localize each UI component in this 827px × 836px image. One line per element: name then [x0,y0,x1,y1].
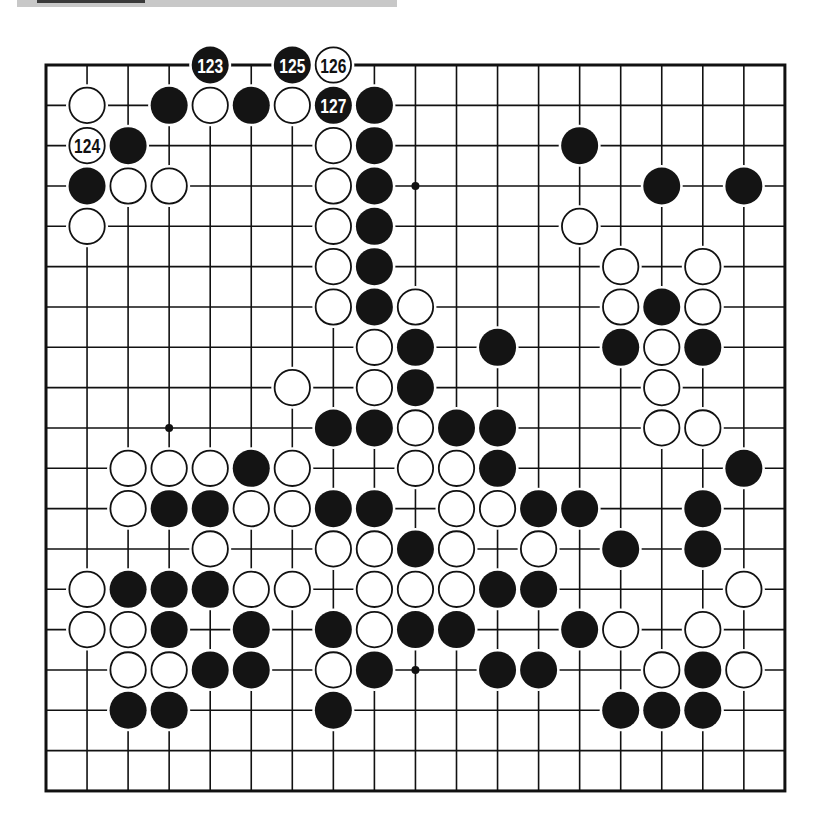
white-stone [353,609,395,651]
black-stone [723,447,765,489]
black-stone [189,488,231,530]
white-stone [394,447,436,489]
black-stone [353,205,395,247]
white-stone [271,447,313,489]
white-stone [641,326,683,368]
black-stone [353,165,395,207]
black-stone [682,689,724,731]
black-stone [189,568,231,610]
black-stone [353,488,395,530]
black-stone [312,609,354,651]
black-stone [477,326,519,368]
white-stone [641,367,683,409]
move-number-label: 126 [320,54,346,77]
black-stone [353,125,395,167]
white-stone [271,568,313,610]
black-stone [559,125,601,167]
black-stone [148,609,190,651]
black-stone [682,326,724,368]
white-stone [107,447,149,489]
black-stone [230,84,272,126]
black-stone [107,568,149,610]
black-stone [353,649,395,691]
white-stone [600,609,642,651]
black-stone [641,286,683,328]
black-stone [394,528,436,570]
black-stone: 127 [312,84,354,126]
black-stone [353,246,395,288]
white-stone [271,367,313,409]
white-stone [312,165,354,207]
black-stone [682,488,724,530]
white-stone [271,488,313,530]
white-stone [682,407,724,449]
black-stone [518,488,560,530]
white-stone [66,609,108,651]
black-stone [312,689,354,731]
white-stone [641,649,683,691]
white-stone [148,447,190,489]
black-stone [641,689,683,731]
black-stone [230,447,272,489]
white-stone [230,488,272,530]
black-stone [148,568,190,610]
black-stone [477,568,519,610]
black-stone [107,689,149,731]
white-stone [271,84,313,126]
black-stone [436,407,478,449]
star-point [411,182,419,190]
white-stone [600,286,642,328]
white-stone [189,84,231,126]
black-stone [353,84,395,126]
white-stone [312,528,354,570]
black-stone [723,165,765,207]
black-stone [107,125,149,167]
black-stone [148,689,190,731]
black-stone [189,649,231,691]
white-stone [107,488,149,530]
white-stone [723,649,765,691]
black-stone [312,488,354,530]
black-stone [600,326,642,368]
white-stone [641,407,683,449]
white-stone [394,407,436,449]
black-stone [230,609,272,651]
black-stone [353,286,395,328]
go-board: 123125126127124 [0,0,827,836]
white-stone [682,246,724,288]
black-stone [394,367,436,409]
white-stone [148,649,190,691]
white-stone [312,286,354,328]
white-stone [312,125,354,167]
black-stone [600,528,642,570]
black-stone [312,407,354,449]
black-stone [682,528,724,570]
star-point [411,666,419,674]
black-stone [353,407,395,449]
white-stone [682,609,724,651]
star-point [165,424,173,432]
move-number-label: 123 [197,54,223,77]
white-stone [107,649,149,691]
white-stone [723,568,765,610]
white-stone [436,447,478,489]
move-number-label: 124 [74,134,100,157]
white-stone [66,84,108,126]
black-stone [477,649,519,691]
white-stone [394,286,436,328]
black-stone [148,488,190,530]
white-stone [600,246,642,288]
white-stone: 126 [312,44,354,86]
white-stone [107,609,149,651]
white-stone [559,205,601,247]
white-stone [312,205,354,247]
black-stone [600,689,642,731]
black-stone: 123 [189,44,231,86]
white-stone [312,246,354,288]
black-stone [518,568,560,610]
white-stone [436,528,478,570]
black-stone [148,84,190,126]
white-stone [353,367,395,409]
white-stone [353,568,395,610]
black-stone [518,649,560,691]
